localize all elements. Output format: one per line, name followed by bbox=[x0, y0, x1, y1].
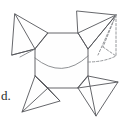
part-label: d. bbox=[1, 89, 11, 102]
central-octagon-face bbox=[35, 33, 88, 88]
dashed-fold-arc bbox=[88, 56, 116, 62]
geometry-net-diagram bbox=[0, 0, 128, 125]
figure-container: d. bbox=[0, 0, 128, 125]
flap-bottom-right-face bbox=[78, 76, 118, 116]
dashed-fold-edge-d bbox=[103, 47, 116, 56]
